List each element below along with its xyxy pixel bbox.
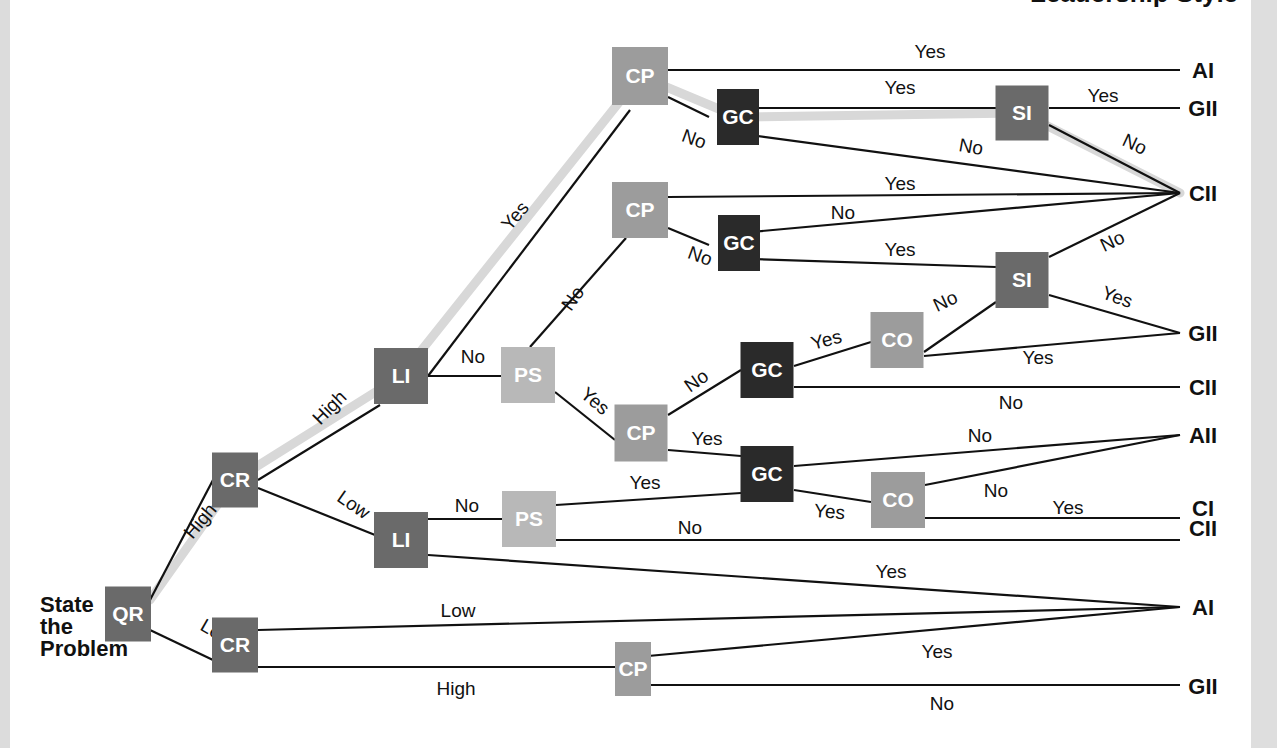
node-ps_top: PS [501,347,555,403]
node-label: CP [626,421,655,444]
node-gc2: GC [718,215,760,271]
start-label-line: Problem [40,638,128,660]
node-co1: CO [871,312,924,368]
node-label: PS [515,507,543,530]
edge-label: No [957,134,985,159]
edge-line [150,480,213,600]
edge-line [794,490,871,502]
edge-line [1049,125,1180,193]
node-label: PS [514,363,542,386]
edge-label: No [999,392,1023,413]
edge-line [668,193,1180,197]
edge-label: Yes [1023,347,1054,368]
edge-label: Yes [922,641,953,662]
node-label: GC [751,462,783,485]
edge-label: No [678,517,702,538]
node-label: CP [625,64,654,87]
node-gc3: GC [741,342,794,398]
edge-line [668,450,741,456]
edge-label: Yes [885,239,916,260]
start-label-line: State [40,594,128,616]
edge-label: No [679,125,709,153]
highlight-path-line [150,76,1180,600]
node-label: CP [625,198,654,221]
node-cp2: CP [612,182,668,238]
edge-line [751,193,1180,232]
node-cr_high: CR [212,453,258,508]
node-label: SI [1012,101,1032,124]
node-label: LI [392,528,411,551]
edge-label: Low [333,486,374,523]
outcome-o_gii_3: GII [1188,674,1217,699]
outcome-o_ai_1: AI [1192,58,1214,83]
edge-label: Yes [809,326,844,354]
edge-label: Yes [1053,497,1084,518]
outcomes: AIGIICIIGIICIIAIICICIIAIGII [1188,58,1217,699]
node-li_low: LI [374,512,428,568]
edge-label: No [930,286,961,315]
outcome-o_gii_2: GII [1188,321,1217,346]
edge-label: Yes [630,472,661,493]
edge-line [925,435,1180,485]
edge-label: Yes [497,197,533,234]
edge-line [556,493,741,505]
node-label: GC [722,105,754,128]
node-label: GC [751,358,783,381]
edge-label: No [461,346,485,367]
outcome-o_aii: AII [1189,423,1217,448]
edge-label: Yes [1088,85,1119,106]
edge-label: No [1119,129,1150,158]
node-label: SI [1012,268,1032,291]
node-label: LI [392,364,411,387]
node-gc4: GC [741,446,794,502]
edge-line [428,555,1180,607]
edge-label: Low [441,600,476,621]
edge-label: High [436,678,475,699]
edge-label: Yes [876,561,907,582]
edge-label: Yes [885,77,916,98]
highlight-path [150,76,1180,600]
node-cp4: CP [615,642,651,696]
edge-label: No [685,242,715,270]
outcome-o_gii_1: GII [1188,96,1217,121]
edge-label: Yes [813,500,846,524]
node-label: CO [882,488,914,511]
decision-tree: HighLowHighLowYesNoNoYesYesNoYesNoYesNoY… [0,0,1277,748]
edge-label: Yes [1099,282,1135,312]
edge-labels: HighLowHighLowYesNoNoYesYesNoYesNoYesNoY… [179,41,1150,714]
edges [150,70,1180,685]
start-label: State the Problem [40,594,128,660]
outcome-o_cii_3: CII [1189,516,1217,541]
node-gc1: GC [717,89,759,145]
nodes: QRCRCRLILIPSPSCPCPCPCPGCGCGCGCSISICOCO [105,47,1049,696]
edge-label: No [831,202,855,223]
edge-label: No [455,495,479,516]
edge-line [751,259,996,267]
node-label: GC [723,231,755,254]
node-cp1: CP [612,47,668,105]
edge-label: Yes [915,41,946,62]
node-ps_low: PS [502,491,556,547]
node-cp3: CP [615,405,668,462]
edge-label: Yes [692,428,723,449]
edge-label: No [930,693,954,714]
edge-line [428,110,630,376]
outcome-o_cii_1: CII [1189,181,1217,206]
edge-label: Yes [885,173,916,194]
node-label: CP [618,657,647,680]
node-co2: CO [871,472,925,528]
node-label: CO [881,328,913,351]
node-label: CR [220,633,250,656]
edge-line [668,228,709,245]
edge-line [258,607,1180,630]
node-label: CR [220,468,250,491]
node-cr_low: CR [212,618,258,673]
node-li_high: LI [374,348,428,404]
outcome-o_cii_2: CII [1189,375,1217,400]
outcome-o_ai_2: AI [1192,595,1214,620]
node-si1: SI [996,86,1049,141]
start-label-line: the [40,616,128,638]
node-si2: SI [996,252,1049,308]
edge-label: No [984,480,1008,501]
edge-label: No [968,425,992,446]
